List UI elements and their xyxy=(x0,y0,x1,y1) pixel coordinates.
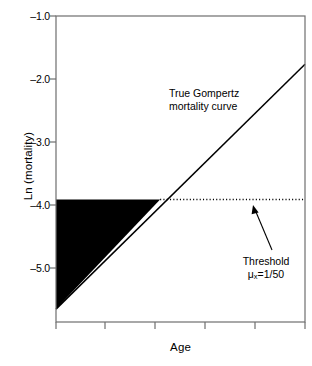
y-axis-title: Ln (mortality) xyxy=(22,86,34,246)
gompertz-threshold-chart: –1.0 –2.0 –3.0 –4.0 –5.0 Ln (mortality) … xyxy=(0,0,312,366)
y-tick-label-2: –2.0 xyxy=(16,74,50,85)
y-tick-label-1: –1.0 xyxy=(16,11,50,22)
x-tick-marks xyxy=(56,322,305,329)
threshold-value: =1/50 xyxy=(258,268,285,280)
gompertz-annotation: True Gompertz mortality curve xyxy=(169,87,239,113)
threshold-annotation-line1: Threshold xyxy=(243,255,290,267)
y-tick-label-5: –5.0 xyxy=(16,263,50,274)
gompertz-annotation-line2: mortality curve xyxy=(169,100,237,112)
x-axis-title: Age xyxy=(56,341,305,353)
threshold-annotation: Threshold μx=1/50 xyxy=(231,255,301,283)
threshold-annotation-formula: μx=1/50 xyxy=(231,268,301,283)
y-tick-marks xyxy=(50,16,56,268)
gompertz-annotation-line1: True Gompertz xyxy=(169,87,239,99)
